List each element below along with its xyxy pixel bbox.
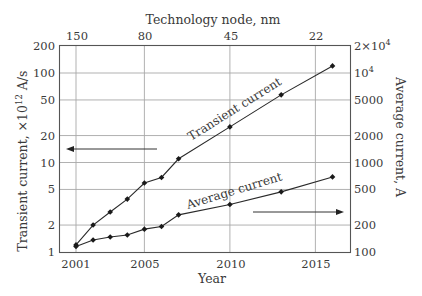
- right-tick: 200: [354, 218, 376, 232]
- data-point-marker: [330, 63, 336, 69]
- top-axis-title: Technology node, nm: [146, 12, 281, 27]
- top-tick: 80: [138, 29, 153, 43]
- bottom-tick: 2005: [130, 257, 159, 271]
- right-tick: 5000: [354, 93, 383, 107]
- top-tick: 45: [224, 29, 239, 43]
- right-tick: 500: [354, 182, 376, 196]
- data-point-marker: [227, 124, 233, 130]
- bottom-tick: 2015: [301, 257, 330, 271]
- data-point-marker: [227, 202, 233, 208]
- right-tick: 2×104: [354, 38, 391, 53]
- left-tick: 10: [40, 156, 55, 170]
- data-point-marker: [125, 232, 131, 238]
- x-axis-title: Year: [197, 271, 226, 286]
- left-tick: 20: [40, 129, 55, 143]
- left-tick: 100: [33, 66, 55, 80]
- arrow-left-icon: [66, 146, 74, 152]
- right-axis-title: Average current, A: [393, 76, 408, 198]
- data-point-marker: [107, 234, 113, 240]
- left-tick: 2: [48, 218, 55, 232]
- arrow-right-icon: [336, 209, 344, 215]
- top-tick: 22: [309, 29, 324, 43]
- data-point-marker: [90, 237, 96, 243]
- series-layer: [73, 63, 335, 249]
- top-axis-ticks: 150 80 45 22: [66, 29, 323, 43]
- left-tick: 200: [33, 39, 55, 53]
- chart: Transient current Average current Techno…: [0, 0, 422, 296]
- left-axis-title: Transient current, ×1012 A/s: [14, 71, 30, 252]
- top-tick: 150: [66, 29, 88, 43]
- data-point-marker: [142, 226, 148, 232]
- bottom-tick: 2001: [61, 257, 90, 271]
- bottom-tick: 2010: [216, 257, 245, 271]
- right-tick: 100: [354, 245, 376, 259]
- left-tick: 5: [48, 182, 55, 196]
- right-tick: 1000: [354, 156, 383, 170]
- right-tick: 104: [354, 65, 374, 80]
- right-axis-ticks: 2×104 104 5000 2000 1000 500 200 100: [354, 38, 391, 259]
- transient-axis-arrow: [66, 146, 157, 152]
- left-tick: 50: [40, 93, 55, 107]
- average-axis-arrow: [253, 209, 344, 215]
- average-current-annotation: Average current: [184, 169, 284, 212]
- right-tick: 2000: [354, 129, 383, 143]
- data-point-marker: [278, 92, 284, 98]
- left-tick: 1: [48, 245, 55, 259]
- data-point-marker: [330, 174, 336, 180]
- transient-current-annotation: Transient current: [185, 75, 284, 144]
- left-axis-ticks: 200 100 50 20 10 5 2 1: [33, 39, 55, 259]
- transient-current-line: [76, 66, 333, 245]
- bottom-axis-ticks: 2001 2005 2010 2015: [61, 257, 330, 271]
